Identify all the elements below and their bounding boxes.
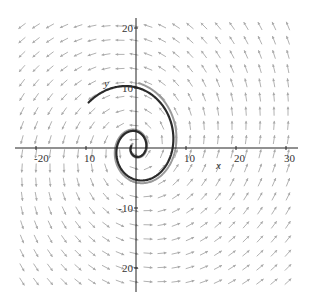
- direction-field: [18, 22, 291, 286]
- field-arrowhead: [192, 280, 195, 283]
- field-arrowhead: [102, 39, 105, 42]
- field-arrowhead: [150, 223, 153, 226]
- field-arrowhead: [102, 25, 105, 28]
- field-arrowhead: [88, 39, 91, 42]
- field-arrowhead: [150, 252, 153, 255]
- field-arrowhead: [21, 184, 24, 187]
- x-tick-label: 30: [284, 152, 296, 164]
- phase-portrait-plot: -20101020302010-1020 x y: [0, 0, 313, 305]
- field-arrowhead: [161, 135, 164, 138]
- field-arrowhead: [231, 121, 234, 124]
- field-arrowhead: [202, 107, 205, 110]
- x-tick-label: -20: [34, 152, 49, 164]
- field-arrowhead: [35, 184, 38, 187]
- field-arrowhead: [217, 121, 220, 124]
- field-arrowhead: [116, 25, 119, 28]
- field-arrowhead: [21, 212, 24, 215]
- field-arrowhead: [130, 124, 133, 127]
- field-arrowhead: [77, 170, 80, 173]
- field-arrowhead: [164, 266, 167, 269]
- field-arrowhead: [102, 68, 105, 71]
- field-arrowhead: [150, 266, 153, 269]
- field-arrowhead: [259, 121, 262, 124]
- field-arrowhead: [273, 121, 276, 124]
- field-arrowhead: [130, 138, 133, 141]
- y-axis-label: y: [103, 77, 109, 89]
- x-tick-label: 10: [84, 152, 96, 164]
- field-arrowhead: [116, 53, 119, 56]
- field-arrowhead: [178, 251, 181, 254]
- plot-canvas: -20101020302010-1020 x y: [0, 0, 313, 305]
- field-arrowhead: [245, 121, 248, 124]
- field-arrowhead: [21, 170, 24, 173]
- y-tick-label: -10: [118, 202, 133, 214]
- field-arrowhead: [164, 280, 167, 283]
- field-arrowhead: [116, 82, 119, 85]
- field-arrowhead: [105, 156, 108, 159]
- axes: -20101020302010-1020 x y: [15, 18, 298, 292]
- y-tick-label: 20: [122, 22, 134, 34]
- field-arrowhead: [230, 93, 233, 96]
- field-arrowhead: [259, 107, 262, 110]
- field-arrowhead: [203, 135, 206, 138]
- field-arrowhead: [202, 121, 205, 124]
- field-arrowhead: [287, 107, 290, 110]
- field-arrowhead: [286, 93, 289, 96]
- x-tick-label: 10: [184, 152, 196, 164]
- field-arrowhead: [272, 93, 275, 96]
- field-arrowhead: [150, 280, 153, 283]
- field-arrowhead: [150, 209, 153, 212]
- field-arrowhead: [77, 184, 80, 187]
- field-arrowhead: [150, 238, 153, 241]
- field-arrowhead: [244, 78, 247, 81]
- y-tick-label: 20: [122, 262, 134, 274]
- x-tick-label: 20: [234, 152, 246, 164]
- field-arrowhead: [49, 170, 52, 173]
- field-arrowhead: [287, 121, 290, 124]
- field-arrowhead: [119, 156, 122, 159]
- field-arrowhead: [164, 252, 167, 255]
- field-arrowhead: [244, 107, 247, 110]
- field-arrowhead: [35, 170, 38, 173]
- field-arrowhead: [150, 195, 153, 198]
- x-axis-label: x: [215, 159, 221, 171]
- dark-trajectory-curve: [89, 86, 174, 180]
- field-arrowhead: [273, 107, 276, 110]
- field-arrowhead: [116, 67, 119, 70]
- y-tick-label: 10: [122, 82, 134, 94]
- field-arrowhead: [189, 135, 192, 138]
- field-arrowhead: [116, 39, 119, 42]
- field-arrowhead: [63, 170, 66, 173]
